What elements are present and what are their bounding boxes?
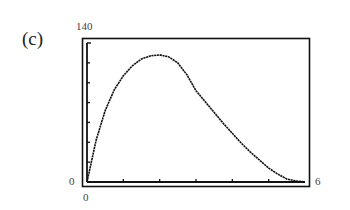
axes bbox=[87, 43, 305, 182]
chart-plot bbox=[0, 0, 350, 210]
data-curve bbox=[87, 55, 305, 182]
axis-ticks bbox=[87, 63, 269, 182]
chart-frame bbox=[83, 39, 310, 187]
